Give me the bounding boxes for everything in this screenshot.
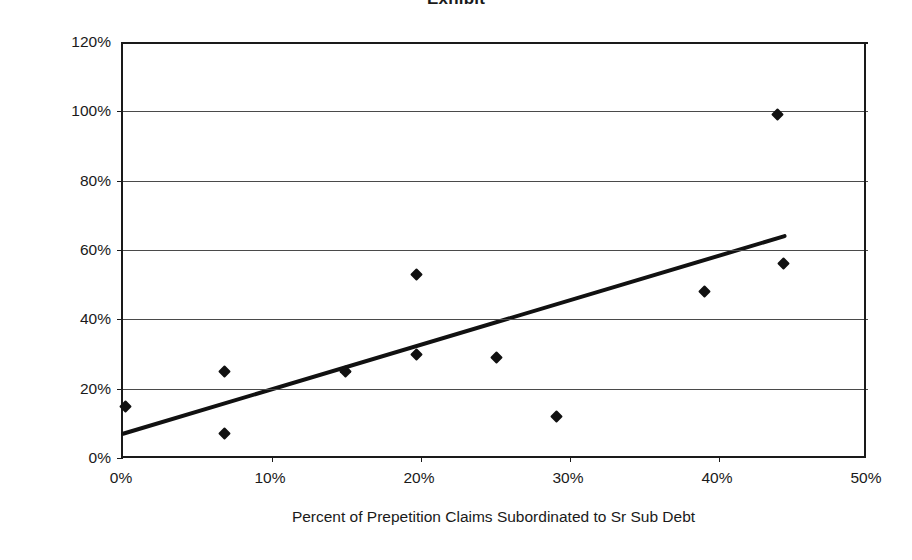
x-tick-label: 20% bbox=[384, 470, 454, 486]
tick-mark-x bbox=[272, 456, 273, 462]
tick-mark-y bbox=[117, 111, 123, 112]
x-tick-label: 50% bbox=[831, 470, 901, 486]
x-tick-label: 30% bbox=[533, 470, 603, 486]
gridline-y bbox=[123, 389, 868, 390]
tick-mark-y bbox=[117, 389, 123, 390]
x-axis-title: Percent of Prepetition Claims Subordinat… bbox=[121, 508, 866, 526]
gridline-y bbox=[123, 111, 868, 112]
x-tick-label: 10% bbox=[235, 470, 305, 486]
tick-mark-x bbox=[421, 456, 422, 462]
gridline-y bbox=[123, 319, 868, 320]
gridline-y bbox=[123, 181, 868, 182]
x-tick-label: 0% bbox=[86, 470, 156, 486]
tick-mark-y bbox=[117, 181, 123, 182]
x-tick-label: 40% bbox=[682, 470, 752, 486]
tick-mark-x bbox=[570, 456, 571, 462]
plot-area bbox=[121, 42, 866, 458]
tick-mark-y bbox=[117, 250, 123, 251]
plot-frame-top bbox=[123, 42, 868, 44]
gridline-y bbox=[123, 250, 868, 251]
tick-mark-y bbox=[117, 319, 123, 320]
scatter-chart-figure: Exhibit Present Value of Recoveries 0%20… bbox=[0, 0, 912, 560]
tick-mark-x bbox=[719, 456, 720, 462]
tick-mark-y bbox=[117, 458, 123, 459]
plot-frame-right bbox=[864, 42, 866, 458]
